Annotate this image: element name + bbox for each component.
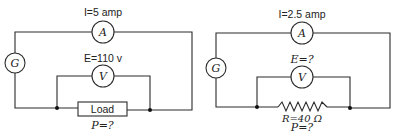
left-current-label: I=5 amp [84,6,122,18]
right-circuit: G A I=2.5 amp V E=? R=40 Ω P=? [206,8,390,134]
ammeter-symbol: A [297,27,306,40]
right-power-label: P=? [290,121,314,134]
voltmeter-symbol: V [99,70,108,83]
load-label: Load [91,103,115,115]
right-bottom-wire [216,78,350,107]
left-power-label: P=? [90,119,114,132]
circuit-diagrams: G A I=5 amp V E=110 v Load P=? G A I=2.5… [0,0,395,136]
right-current-label: I=2.5 amp [279,8,326,20]
junction-dot [255,105,259,109]
generator-symbol: G [212,62,221,75]
right-voltage-label: E=? [289,53,313,66]
left-voltage-label: E=110 v [84,52,123,64]
generator-symbol: G [11,57,20,70]
resistor-icon [278,102,327,111]
ammeter-symbol: A [98,26,107,39]
left-circuit: G A I=5 amp V E=110 v Load P=? [5,6,192,132]
junction-dot [348,106,352,110]
junction-dot [55,106,59,110]
junction-dot [148,108,152,112]
voltmeter-symbol: V [298,71,307,84]
